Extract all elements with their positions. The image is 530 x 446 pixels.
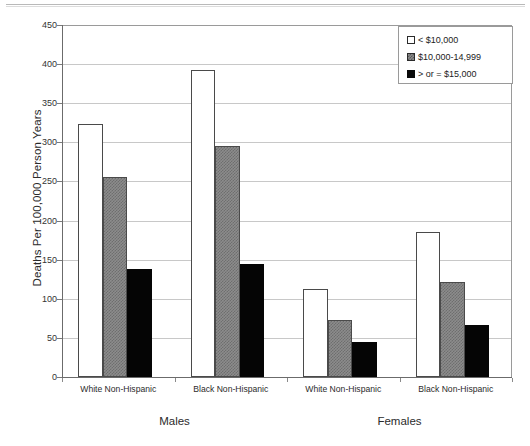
- bar: [127, 269, 152, 377]
- bar: [215, 146, 240, 377]
- x-axis-tick-mark: [512, 378, 513, 382]
- x-axis-tick-mark: [175, 378, 176, 382]
- y-axis-tick-mark: [57, 181, 62, 182]
- chart-legend: < $10,000 $10,000-14,999 > or = $15,000: [398, 26, 513, 84]
- bar: [328, 320, 353, 377]
- bar-chart-figure: Deaths Per 100,000 Person Years 05010015…: [0, 0, 530, 446]
- legend-item-label: > or = $15,000: [418, 70, 477, 79]
- bar: [440, 282, 465, 377]
- x-axis-tick-mark: [287, 378, 288, 382]
- gray-hatched-square-icon: [407, 53, 415, 61]
- y-axis-tick-label: 0: [23, 373, 57, 382]
- y-axis-tick-mark: [57, 64, 62, 65]
- bar: [78, 124, 103, 377]
- group-label: Males: [62, 415, 287, 427]
- y-axis-tick-label: 150: [23, 256, 57, 265]
- bar: [303, 289, 328, 377]
- bar: [103, 177, 128, 377]
- legend-item-label: < $10,000: [418, 36, 458, 45]
- bar: [240, 264, 265, 377]
- y-axis-tick-mark: [57, 25, 62, 26]
- bar: [191, 70, 216, 377]
- y-axis-tick-label: 250: [23, 177, 57, 186]
- x-axis-category-label: Black Non-Hispanic: [400, 385, 513, 394]
- legend-item: < $10,000: [407, 32, 512, 48]
- black-square-icon: [407, 70, 415, 78]
- y-axis-tick-mark: [57, 299, 62, 300]
- y-axis-tick-label: 350: [23, 99, 57, 108]
- y-axis-tick-mark: [57, 103, 62, 104]
- group-label: Females: [287, 415, 512, 427]
- x-axis-tick-mark: [400, 378, 401, 382]
- legend-item: $10,000-14,999: [407, 49, 512, 65]
- y-axis-tick-mark: [57, 221, 62, 222]
- bar: [352, 342, 377, 377]
- y-axis-tick-label: 200: [23, 217, 57, 226]
- y-axis-tick-mark: [57, 338, 62, 339]
- y-axis-tick-mark: [57, 142, 62, 143]
- white-square-icon: [407, 36, 415, 44]
- x-axis-category-label: White Non-Hispanic: [287, 385, 400, 394]
- x-axis-category-label: White Non-Hispanic: [62, 385, 175, 394]
- y-axis-tick-label: 400: [23, 60, 57, 69]
- bar: [416, 232, 441, 377]
- y-axis-tick-group: 050100150200250300350400450: [16, 0, 57, 446]
- bar: [465, 325, 490, 377]
- y-axis-tick-label: 50: [23, 334, 57, 343]
- y-axis-tick-mark: [57, 260, 62, 261]
- y-axis-tick-label: 100: [23, 295, 57, 304]
- x-axis-tick-mark: [62, 378, 63, 382]
- x-axis-category-label: Black Non-Hispanic: [175, 385, 288, 394]
- y-axis-tick-label: 300: [23, 138, 57, 147]
- legend-item: > or = $15,000: [407, 66, 512, 82]
- y-axis-tick-label: 450: [23, 21, 57, 30]
- legend-item-label: $10,000-14,999: [418, 53, 481, 62]
